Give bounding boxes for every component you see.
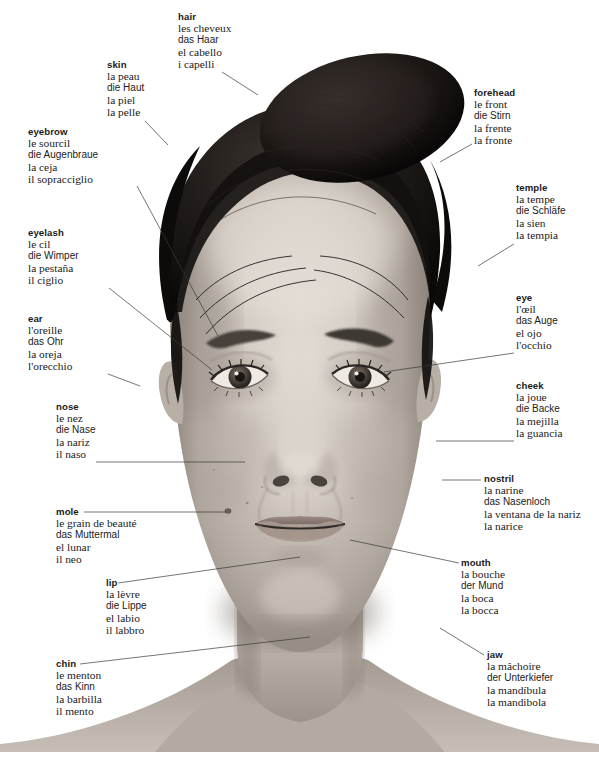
label-nose-de: die Nase — [56, 425, 95, 436]
label-eyebrow-term: eyebrow — [28, 127, 98, 137]
label-eye-term: eye — [516, 293, 558, 303]
label-lip: lipla lèvredie Lippeel labioil labbro — [106, 578, 147, 636]
label-chin-fr: le menton — [56, 669, 102, 681]
label-temple-fr: la tempe — [516, 193, 565, 205]
label-mole-de: das Muttermal — [56, 530, 137, 541]
label-nostril-es: la ventana de la nariz — [484, 508, 581, 520]
label-skin-it: la pelle — [107, 106, 144, 118]
label-nostril-fr: la narine — [484, 484, 581, 496]
label-chin-term: chin — [56, 659, 102, 669]
label-eye-fr: l'œil — [516, 303, 558, 315]
label-mouth-de: der Mund — [461, 581, 505, 592]
label-eyelash-fr: le cil — [28, 238, 79, 250]
label-hair-it: i capelli — [178, 58, 231, 70]
label-chin-de: das Kinn — [56, 682, 102, 693]
label-eyebrow-es: la ceja — [28, 161, 98, 173]
label-mole: molele grain de beautédas Muttermalel lu… — [56, 507, 137, 565]
label-forehead-es: la frente — [474, 122, 515, 134]
label-cheek-fr: la joue — [516, 391, 563, 403]
label-forehead-it: la fronte — [474, 134, 515, 146]
label-eye-es: el ojo — [516, 327, 558, 339]
label-nose-it: il naso — [56, 448, 95, 460]
label-nose: nosele nezdie Nasela narizil naso — [56, 402, 95, 460]
label-skin-fr: la peau — [107, 70, 144, 82]
label-skin-term: skin — [107, 60, 144, 70]
label-nostril-it: la narice — [484, 520, 581, 532]
label-chin: chinle mentondas Kinnla barbillail mento — [56, 659, 102, 717]
label-hair-fr: les cheveux — [178, 22, 231, 34]
label-cheek-de: die Backe — [516, 404, 563, 415]
label-cheek-es: la mejilla — [516, 415, 563, 427]
label-lip-fr: la lèvre — [106, 588, 147, 600]
label-eyebrow: eyebrowle sourcildie Augenbrauela cejail… — [28, 127, 98, 185]
label-eyelash-de: die Wimper — [28, 251, 79, 262]
label-skin-es: la piel — [107, 94, 144, 106]
label-temple-es: la sien — [516, 217, 565, 229]
label-ear-term: ear — [28, 314, 72, 324]
label-lip-it: il labbro — [106, 624, 147, 636]
label-nostril-de: das Nasenloch — [484, 497, 581, 508]
label-jaw-term: jaw — [487, 650, 553, 660]
label-mole-it: il neo — [56, 553, 137, 565]
label-eyelash-es: la pestaña — [28, 262, 79, 274]
label-nose-es: la nariz — [56, 436, 95, 448]
label-nostril-term: nostril — [484, 474, 581, 484]
label-nostril: nostrilla narinedas Nasenlochla ventana … — [484, 474, 581, 532]
label-mouth-term: mouth — [461, 558, 505, 568]
label-mouth: mouthla boucheder Mundla bocala bocca — [461, 558, 505, 616]
label-mole-term: mole — [56, 507, 137, 517]
label-eyelash: eyelashle cildie Wimperla pestañail cigl… — [28, 228, 79, 286]
label-ear-it: l'orecchio — [28, 360, 72, 372]
label-temple-it: la tempia — [516, 229, 565, 241]
label-cheek-term: cheek — [516, 381, 563, 391]
label-mouth-es: la boca — [461, 592, 505, 604]
label-jaw-de: der Unterkiefer — [487, 673, 553, 684]
label-forehead-de: die Stirn — [474, 111, 515, 122]
label-nose-fr: le nez — [56, 412, 95, 424]
label-forehead: foreheadle frontdie Stirnla frentela fro… — [474, 88, 515, 146]
label-ear-de: das Ohr — [28, 337, 72, 348]
label-temple-de: die Schläfe — [516, 206, 565, 217]
label-jaw-es: la mandíbula — [487, 684, 553, 696]
label-chin-it: il mento — [56, 705, 102, 717]
label-jaw: jawla mâchoireder Unterkieferla mandíbul… — [487, 650, 553, 708]
label-eyebrow-de: die Augenbraue — [28, 150, 98, 161]
label-hair-term: hair — [178, 12, 231, 22]
label-hair-de: das Haar — [178, 35, 231, 46]
label-jaw-fr: la mâchoire — [487, 660, 553, 672]
label-forehead-term: forehead — [474, 88, 515, 98]
label-eyelash-term: eyelash — [28, 228, 79, 238]
label-hair-es: el cabello — [178, 46, 231, 58]
label-forehead-fr: le front — [474, 98, 515, 110]
label-mouth-it: la bocca — [461, 604, 505, 616]
label-mole-fr: le grain de beauté — [56, 517, 137, 529]
label-chin-es: la barbilla — [56, 693, 102, 705]
label-eyelash-it: il ciglio — [28, 274, 79, 286]
label-jaw-it: la mandibola — [487, 696, 553, 708]
label-lip-de: die Lippe — [106, 601, 147, 612]
label-cheek-it: la guancia — [516, 427, 563, 439]
label-eyebrow-fr: le sourcil — [28, 137, 98, 149]
label-ear-es: la oreja — [28, 348, 72, 360]
label-ear: earl'oreilledas Ohrla orejal'orecchio — [28, 314, 72, 372]
label-nose-term: nose — [56, 402, 95, 412]
label-eye-de: das Auge — [516, 316, 558, 327]
label-mole-es: el lunar — [56, 541, 137, 553]
label-eye-it: l'occhio — [516, 339, 558, 351]
label-lip-es: el labio — [106, 612, 147, 624]
label-lip-term: lip — [106, 578, 147, 588]
label-temple-term: temple — [516, 183, 565, 193]
label-skin-de: die Haut — [107, 83, 144, 94]
label-eye: eyel'œildas Augeel ojol'occhio — [516, 293, 558, 351]
label-cheek: cheekla jouedie Backela mejillala guanci… — [516, 381, 563, 439]
face-anatomy-diagram: hairles cheveuxdas Haarel cabelloi capel… — [0, 0, 599, 759]
label-ear-fr: l'oreille — [28, 324, 72, 336]
label-hair: hairles cheveuxdas Haarel cabelloi capel… — [178, 12, 231, 70]
label-mouth-fr: la bouche — [461, 568, 505, 580]
label-temple: templela tempedie Schläfela sienla tempi… — [516, 183, 565, 241]
label-eyebrow-it: il sopracciglio — [28, 173, 98, 185]
label-skin: skinla peaudie Hautla piella pelle — [107, 60, 144, 118]
